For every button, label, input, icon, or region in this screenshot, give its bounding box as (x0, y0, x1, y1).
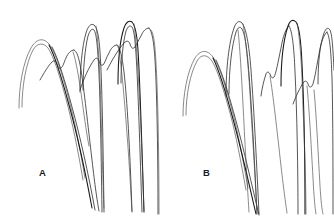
blade-outline (327, 32, 333, 214)
blade-outline (293, 32, 327, 104)
blade-outline (121, 26, 142, 212)
blade-outline (183, 51, 248, 188)
figure-illustration: A B (0, 0, 334, 221)
blade-outline (107, 28, 149, 70)
blade-outline (117, 45, 132, 212)
panel-a-blades (19, 21, 159, 214)
blade-outline (118, 46, 132, 211)
blade-outline (186, 56, 246, 190)
blade-outline (40, 50, 74, 80)
figure-canvas (0, 0, 334, 221)
blade-outline (289, 26, 298, 214)
blade-outline (281, 20, 305, 214)
panel-b-blades (183, 20, 334, 215)
blade-outline (307, 86, 316, 214)
panel-label-a: A (39, 168, 46, 178)
blade-outline (270, 76, 287, 213)
blade-outline (149, 28, 158, 214)
blade-outline (22, 44, 83, 180)
panel-label-b: B (203, 168, 210, 178)
blade-outline (314, 90, 323, 214)
